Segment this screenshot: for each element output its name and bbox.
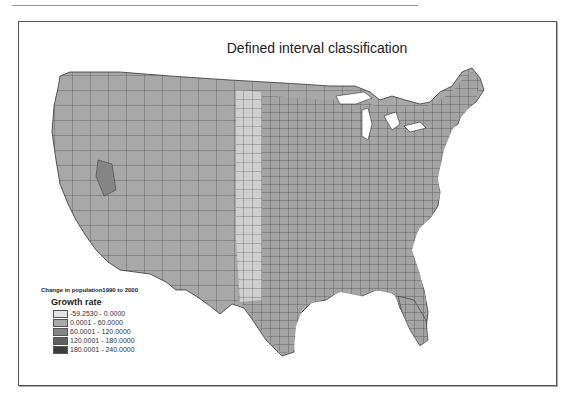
- legend-item: 120.0001 - 180.0000: [53, 336, 138, 345]
- legend: Change in population1990 to 2000 Growth …: [41, 287, 138, 354]
- legend-label: -59.2530 - 0.0000: [70, 310, 125, 317]
- legend-label: 180.0001 - 240.0000: [70, 346, 135, 353]
- legend-swatch: [53, 346, 68, 354]
- legend-item: 180.0001 - 240.0000: [53, 345, 138, 354]
- legend-item: 0.0001 - 60.0000: [53, 318, 138, 327]
- legend-label: 60.0001 - 120.0000: [70, 328, 131, 335]
- legend-label: 0.0001 - 60.0000: [70, 319, 123, 326]
- legend-swatch: [53, 319, 68, 327]
- legend-swatch: [53, 337, 68, 345]
- legend-subheading: Growth rate: [51, 297, 138, 307]
- legend-label: 120.0001 - 180.0000: [70, 337, 135, 344]
- legend-heading: Change in population1990 to 2000: [41, 287, 138, 293]
- legend-item: 60.0001 - 120.0000: [53, 327, 138, 336]
- legend-item: -59.2530 - 0.0000: [53, 309, 138, 318]
- legend-swatch: [53, 310, 68, 318]
- legend-swatch: [53, 328, 68, 336]
- map-title: Defined interval classification: [30, 40, 574, 56]
